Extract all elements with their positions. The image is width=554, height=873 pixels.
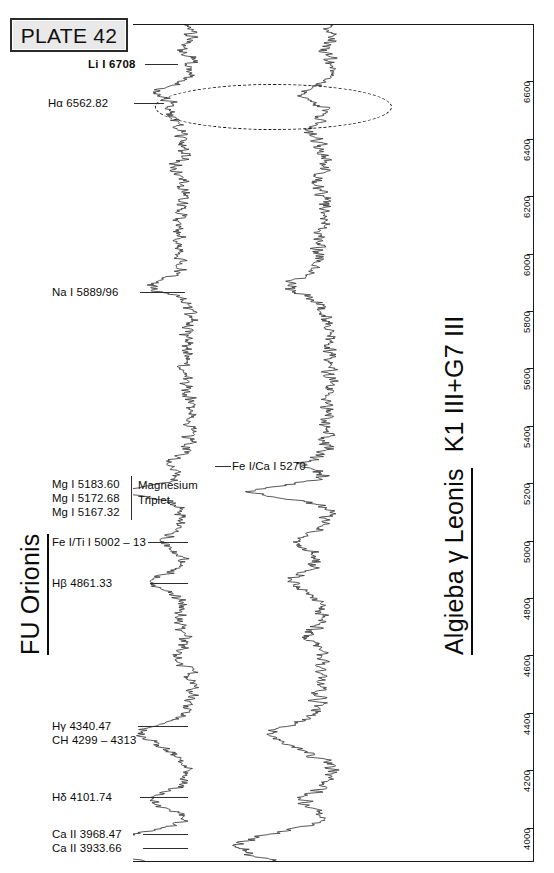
- line-label-mg-group-2: Triplet: [138, 493, 170, 507]
- leader-line-ca2-3968: [143, 834, 188, 835]
- axis-tick-label: 4800: [521, 598, 532, 620]
- spectrum-trace-algieba: [233, 25, 340, 861]
- line-label-li-6708: Li I 6708: [88, 57, 136, 71]
- leader-line-hbeta: [150, 583, 188, 584]
- leader-line-fe-ti-5002: [148, 542, 188, 543]
- axis-tick-label: 6400: [521, 139, 532, 161]
- line-label-ca2-3933: Ca II 3933.66: [52, 841, 122, 855]
- line-label-mg-5172: Mg I 5172.68: [52, 491, 120, 505]
- axis-tick-label: 5400: [521, 426, 532, 448]
- line-label-hgamma: Hγ 4340.47: [52, 719, 111, 733]
- spectra-canvas: [133, 25, 533, 861]
- leader-line-ca2-3933: [143, 848, 188, 849]
- spectra-plot-frame: [133, 24, 534, 862]
- leader-line-halpha: [134, 103, 164, 104]
- axis-tick-label: 5200: [521, 483, 532, 505]
- line-label-na-5889: Na I 5889/96: [52, 285, 118, 299]
- spectrum-trace-fu-orionis: [133, 25, 199, 861]
- left-star-title: FU Orionis: [16, 534, 45, 655]
- magnesium-triplet-bracket: [131, 476, 132, 520]
- line-label-mg-5183: Mg I 5183.60: [52, 477, 120, 491]
- plate-figure: PLATE 42 6600640062006000580056005400520…: [0, 0, 554, 873]
- axis-tick-label: 4600: [521, 655, 532, 677]
- leader-line-fe-ca-5270: [215, 466, 231, 467]
- halpha-emission-ellipse: [155, 84, 392, 130]
- right-star-spectral-type: K1 III+G7 III: [440, 316, 468, 453]
- axis-tick-label: 5000: [521, 541, 532, 563]
- line-label-mg-group-1: Magnesium: [138, 478, 198, 492]
- left-star-name: FU Orionis: [16, 534, 49, 655]
- line-label-fe-ti-5002: Fe I/Ti I 5002 – 13: [52, 535, 146, 549]
- axis-tick-label: 5800: [521, 311, 532, 333]
- axis-tick-label: 6000: [521, 254, 532, 276]
- axis-tick-label: 4400: [521, 713, 532, 735]
- line-label-fe-ca-5270: Fe I/Ca I 5270: [232, 459, 306, 473]
- axis-tick-label: 4000: [521, 828, 532, 850]
- line-label-hbeta: Hβ 4861.33: [52, 576, 112, 590]
- axis-tick-label: 5600: [521, 368, 532, 390]
- plate-number-badge: PLATE 42: [10, 18, 128, 52]
- line-label-ch-4299: CH 4299 – 4313: [52, 733, 136, 747]
- right-star-name: Algieba γ Leonis: [440, 468, 473, 655]
- axis-tick-label: 4200: [521, 770, 532, 792]
- spectra-traces: [133, 25, 533, 861]
- leader-line-hdelta: [140, 797, 188, 798]
- right-star-title: Algieba γ LeonisK1 III+G7 III: [440, 316, 469, 655]
- line-label-ca2-3968: Ca II 3968.47: [52, 827, 122, 841]
- plate-number-label: PLATE 42: [21, 25, 118, 46]
- line-label-hdelta: Hδ 4101.74: [52, 790, 112, 804]
- line-label-mg-5167: Mg I 5167.32: [52, 505, 120, 519]
- line-label-halpha: Hα 6562.82: [48, 96, 108, 110]
- leader-line-na-5889: [140, 292, 185, 293]
- leader-line-hgamma: [138, 726, 188, 727]
- leader-line-li-6708: [145, 64, 178, 65]
- axis-tick-label: 6600: [521, 81, 532, 103]
- axis-tick-label: 6200: [521, 196, 532, 218]
